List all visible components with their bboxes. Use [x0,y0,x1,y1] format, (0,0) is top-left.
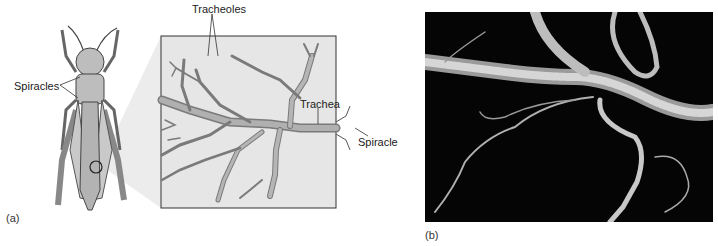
panel-b-label: (b) [425,229,438,241]
label-trachea: Trachea [300,98,340,110]
panel-a-label: (a) [6,212,19,224]
label-spiracle: Spiracle [358,136,398,148]
label-tracheoles: Tracheoles [192,3,246,15]
label-spiracles: Spiracles [14,80,59,92]
micrograph-tubes [425,12,713,222]
trachea-micrograph [425,12,713,222]
